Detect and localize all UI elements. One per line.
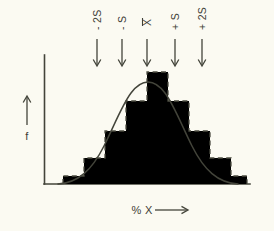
marker-label-plus-s: + S xyxy=(169,13,181,30)
x-axis-label-group: % X xyxy=(131,204,188,216)
figure-container: - 2S - S X + S + 2S xyxy=(0,0,274,231)
marker-arrows xyxy=(93,39,206,66)
down-arrow-icon-minus-2s xyxy=(93,39,101,66)
marker-label-minus-2s: - 2S xyxy=(91,10,103,30)
marker-label-plus-2s: + 2S xyxy=(196,7,208,30)
distribution-chart: - 2S - S X + S + 2S xyxy=(0,0,274,231)
y-axis-label: f xyxy=(25,130,29,142)
down-arrow-icon-mean xyxy=(143,39,151,66)
down-arrow-icon-plus-s xyxy=(171,39,179,66)
marker-label-minus-s: - S xyxy=(116,16,128,30)
down-arrow-icon-plus-2s xyxy=(198,39,206,66)
y-axis-label-group: f xyxy=(23,96,31,142)
x-axis-label: % X xyxy=(131,204,152,216)
marker-labels: - 2S - S X + S + 2S xyxy=(91,7,208,30)
marker-label-mean: X xyxy=(141,18,153,26)
down-arrow-icon-minus-s xyxy=(118,39,126,66)
